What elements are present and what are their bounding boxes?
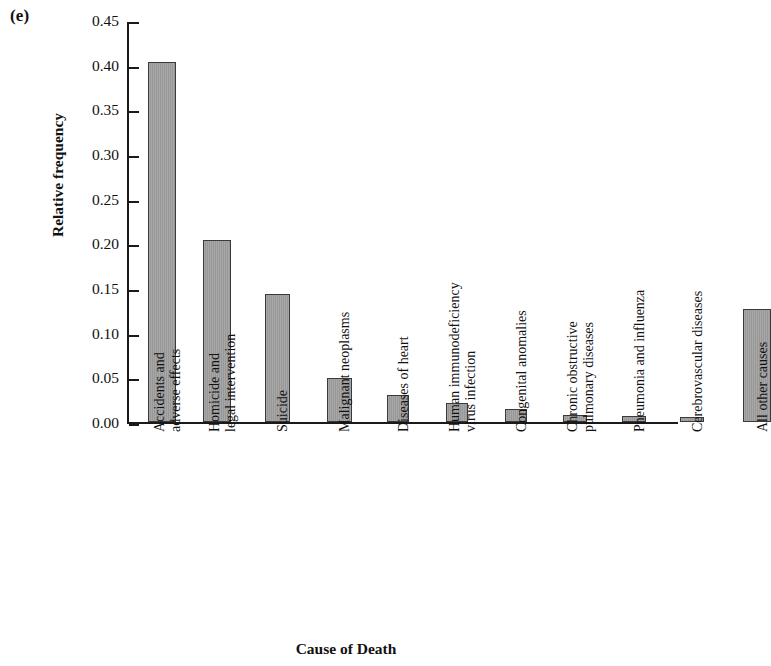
y-axis-title: Relative frequency bbox=[49, 55, 67, 295]
y-tick-mark bbox=[129, 290, 139, 292]
x-tick-label-line: Malignant neoplasms bbox=[337, 312, 353, 432]
x-tick-label-line: Homicide and bbox=[207, 334, 223, 432]
y-tick-mark bbox=[129, 424, 139, 426]
x-tick-label-line: Cerebrovascular diseases bbox=[690, 291, 706, 432]
y-tick-label: 0.15 bbox=[92, 280, 119, 298]
x-tick-label-line: pulmonary diseases bbox=[581, 321, 597, 432]
y-tick-mark bbox=[129, 201, 139, 203]
y-tick-label: 0.00 bbox=[92, 414, 119, 432]
x-tick-label-line: Accidents and bbox=[152, 349, 168, 432]
x-tick-label-line: Congenital anomalies bbox=[514, 310, 530, 432]
x-tick-label-line: All other causes bbox=[755, 342, 771, 432]
y-tick-mark bbox=[129, 335, 139, 337]
x-tick-label-line: Human immunodeficiency bbox=[447, 282, 463, 432]
x-tick-label-line: Chronic obstructive bbox=[565, 321, 581, 432]
y-tick-mark bbox=[129, 245, 139, 247]
y-tick-mark bbox=[129, 22, 139, 24]
x-tick-label-line: adverse effects bbox=[168, 349, 184, 432]
y-tick-mark bbox=[129, 156, 139, 158]
x-tick-label-line: Diseases of heart bbox=[396, 336, 412, 432]
x-axis-title: Cause of Death bbox=[0, 640, 692, 658]
x-tick-label-line: legal intervention bbox=[223, 334, 239, 432]
y-tick-label: 0.05 bbox=[92, 369, 119, 387]
y-tick-label: 0.10 bbox=[92, 325, 119, 343]
x-tick-label-line: virus infection bbox=[463, 282, 479, 432]
y-tick-label: 0.30 bbox=[92, 146, 119, 164]
y-tick-label: 0.40 bbox=[92, 57, 119, 75]
y-axis-line bbox=[127, 22, 129, 424]
y-tick-label: 0.20 bbox=[92, 235, 119, 253]
panel-label: (e) bbox=[10, 6, 29, 26]
x-tick-label-line: Suicide bbox=[275, 390, 291, 432]
y-tick-label: 0.25 bbox=[92, 191, 119, 209]
x-tick-label-line: Pneumonia and influenza bbox=[632, 290, 648, 432]
y-tick-label: 0.45 bbox=[92, 12, 119, 30]
y-tick-label: 0.35 bbox=[92, 101, 119, 119]
y-tick-mark bbox=[129, 67, 139, 69]
y-tick-mark bbox=[129, 111, 139, 113]
y-tick-mark bbox=[129, 379, 139, 381]
